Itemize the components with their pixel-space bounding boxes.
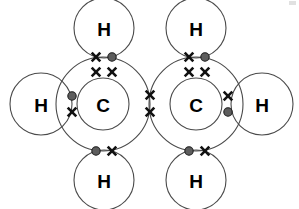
corner-artifact [289, 1, 296, 5]
electron-dot-e-top-left-dot [108, 53, 116, 61]
electron-cross-e-inner-right-cross-b [201, 68, 210, 77]
atom-label-h-right: H [255, 95, 269, 116]
electron-dot-e-right-dot [224, 108, 232, 116]
electron-shells-layer [10, 0, 293, 209]
atom-label-h-bottom-right: H [189, 171, 203, 192]
electron-cross-e-inner-left-cross-a [92, 68, 101, 77]
atom-label-h-top-right: H [189, 19, 203, 40]
molecule-svg: HHHHHHCC [0, 0, 299, 209]
atom-label-c-right: C [189, 95, 203, 116]
electron-cross-e-inner-left-cross-b [108, 68, 117, 77]
atom-label-h-top-left: H [97, 19, 111, 40]
electron-cross-e-right-cross [224, 92, 233, 101]
electron-dot-e-bottom-right-dot [185, 147, 193, 155]
atom-label-c-left: C [96, 95, 110, 116]
atom-label-h-left: H [34, 95, 48, 116]
electron-dot-e-bottom-left-dot [92, 147, 100, 155]
electron-cross-e-inner-right-cross-a [185, 68, 194, 77]
atom-labels-layer: HHHHHHCC [34, 19, 269, 192]
atom-label-h-bottom-left: H [97, 171, 111, 192]
electron-dot-e-top-right-dot [201, 53, 209, 61]
electron-dot-e-left-dot [68, 92, 76, 100]
dot-and-cross-diagram: HHHHHHCC [0, 0, 299, 209]
